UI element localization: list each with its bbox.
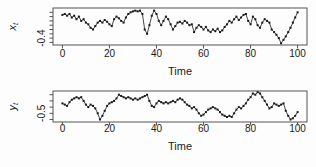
data-point bbox=[198, 112, 200, 114]
data-point bbox=[247, 99, 249, 101]
data-point bbox=[163, 102, 165, 104]
data-point bbox=[83, 100, 85, 102]
data-point bbox=[146, 94, 148, 96]
data-point bbox=[261, 96, 263, 98]
data-point bbox=[217, 28, 219, 30]
data-point bbox=[283, 39, 285, 41]
data-point bbox=[120, 20, 122, 22]
data-point bbox=[139, 97, 141, 99]
data-point bbox=[188, 105, 190, 107]
data-point bbox=[257, 24, 259, 26]
data-point bbox=[254, 94, 256, 96]
data-point bbox=[266, 20, 268, 22]
data-point bbox=[278, 37, 280, 39]
data-point bbox=[106, 21, 108, 23]
data-point bbox=[184, 20, 186, 22]
data-point bbox=[160, 24, 162, 26]
data-point bbox=[160, 101, 162, 103]
data-point bbox=[294, 17, 296, 19]
data-point bbox=[198, 24, 200, 26]
data-point bbox=[177, 22, 179, 24]
data-point bbox=[243, 14, 245, 16]
time-series-figure: 020406080100-0.4Timext 020406080100-0.5T… bbox=[0, 0, 316, 167]
data-point bbox=[132, 10, 134, 12]
data-point bbox=[130, 97, 132, 99]
data-point bbox=[80, 96, 82, 98]
data-point bbox=[186, 104, 188, 106]
data-point bbox=[233, 18, 235, 20]
data-point bbox=[101, 115, 103, 117]
data-point bbox=[285, 35, 287, 37]
data-point bbox=[97, 22, 99, 24]
data-point bbox=[217, 109, 219, 111]
data-point bbox=[179, 97, 181, 99]
y-axis-title: yt bbox=[6, 102, 20, 112]
data-point bbox=[273, 102, 275, 104]
data-point bbox=[292, 117, 294, 119]
data-point bbox=[238, 106, 240, 108]
data-point bbox=[179, 21, 181, 23]
data-point bbox=[287, 31, 289, 33]
data-point bbox=[240, 107, 242, 109]
data-point bbox=[250, 23, 252, 25]
data-point bbox=[278, 105, 280, 107]
x-tick-label: 40 bbox=[151, 48, 163, 59]
data-point bbox=[71, 99, 73, 101]
data-point bbox=[196, 27, 198, 29]
data-point bbox=[221, 114, 223, 116]
data-point bbox=[214, 30, 216, 32]
data-point bbox=[214, 107, 216, 109]
data-point bbox=[104, 110, 106, 112]
data-point bbox=[92, 29, 94, 31]
data-point bbox=[275, 104, 277, 106]
data-point bbox=[64, 104, 66, 106]
data-point bbox=[101, 22, 103, 24]
data-point bbox=[148, 100, 150, 102]
data-point bbox=[231, 22, 233, 24]
data-point bbox=[226, 116, 228, 118]
plot-frame bbox=[53, 91, 307, 122]
data-point bbox=[224, 26, 226, 28]
data-point bbox=[243, 105, 245, 107]
axis-ticks bbox=[50, 95, 298, 126]
data-point bbox=[167, 102, 169, 104]
data-point bbox=[191, 107, 193, 109]
data-point bbox=[156, 13, 158, 15]
data-point bbox=[193, 106, 195, 108]
x-tick-label: 20 bbox=[104, 48, 116, 59]
data-point bbox=[203, 29, 205, 31]
data-point bbox=[120, 95, 122, 97]
data-point bbox=[148, 24, 150, 26]
data-point bbox=[108, 23, 110, 25]
data-point bbox=[163, 20, 165, 22]
data-point bbox=[137, 99, 139, 101]
data-point bbox=[170, 101, 172, 103]
data-point bbox=[104, 19, 106, 21]
data-point bbox=[188, 24, 190, 26]
data-point bbox=[158, 100, 160, 102]
data-point bbox=[196, 109, 198, 111]
data-point bbox=[85, 104, 87, 106]
data-point bbox=[111, 25, 113, 27]
data-point bbox=[73, 15, 75, 17]
data-point bbox=[181, 23, 183, 25]
data-point bbox=[87, 23, 89, 25]
x-tick-label: 100 bbox=[289, 48, 306, 59]
data-point bbox=[85, 22, 87, 24]
data-point bbox=[240, 17, 242, 19]
data-point bbox=[116, 16, 118, 18]
data-point bbox=[261, 22, 263, 24]
data-point bbox=[233, 112, 235, 114]
data-point bbox=[108, 102, 110, 104]
data-point bbox=[64, 13, 66, 15]
data-point bbox=[137, 10, 139, 12]
data-point bbox=[207, 29, 209, 31]
y-tick-label: -0.5 bbox=[36, 104, 47, 122]
data-point bbox=[116, 97, 118, 99]
data-point bbox=[61, 102, 63, 104]
data-point bbox=[259, 27, 261, 29]
data-point bbox=[228, 20, 230, 22]
data-point bbox=[235, 16, 237, 18]
data-point bbox=[94, 25, 96, 27]
data-point bbox=[259, 93, 261, 95]
